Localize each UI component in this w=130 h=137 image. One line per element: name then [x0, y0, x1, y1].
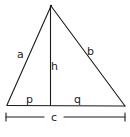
label-b: b — [87, 45, 94, 58]
base-c-line — [7, 106, 125, 107]
label-q: q — [74, 93, 81, 106]
side-a-line — [7, 6, 51, 105]
label-p: p — [26, 93, 33, 106]
triangle-diagram: a b h p q c — [0, 0, 130, 137]
apex-point — [50, 5, 52, 7]
label-h: h — [51, 60, 58, 73]
label-a: a — [17, 48, 24, 61]
label-c: c — [51, 111, 57, 124]
